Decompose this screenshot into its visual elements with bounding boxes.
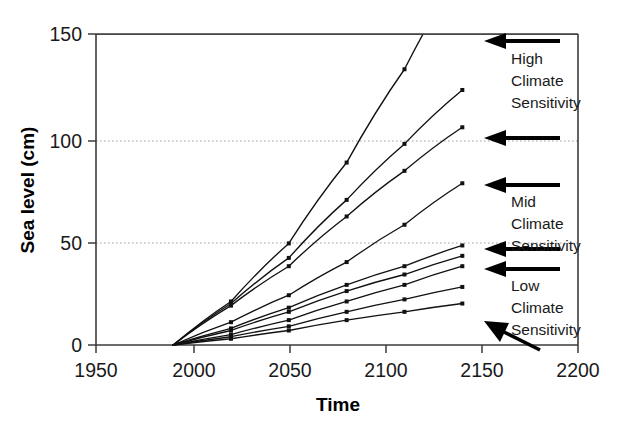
annotation-low-line-3: Sensitivity: [511, 321, 581, 338]
series-8-point-1: [229, 337, 233, 341]
series-6-point-3: [345, 299, 349, 303]
series-4-point-4: [402, 264, 406, 268]
top-clip-mask: [96, 0, 578, 34]
series-8-point-5: [460, 302, 464, 306]
series-5-point-1: [229, 328, 233, 332]
annotation-mid-line-2: Climate: [511, 215, 564, 232]
series-3-point-4: [402, 223, 406, 227]
annotation-high-line-3: Sensitivity: [511, 94, 581, 111]
x-tick-label-2200: 2200: [556, 359, 600, 381]
annotation-low-line-1: Low: [511, 277, 540, 294]
y-tick-label-100: 100: [49, 130, 82, 152]
series-8-point-3: [345, 318, 349, 322]
y-tick-label-150: 150: [49, 23, 82, 45]
y-axis-title: Sea level (cm): [17, 127, 38, 254]
series-3-point-5: [460, 181, 464, 185]
series-4-point-2: [287, 306, 291, 310]
series-7-point-3: [345, 310, 349, 314]
series-5-point-3: [345, 289, 349, 293]
annotation-high-line-2: Climate: [511, 72, 564, 89]
x-tick-label-1950: 1950: [74, 359, 118, 381]
series-6-point-4: [402, 283, 406, 287]
series-1-point-2: [287, 256, 291, 260]
x-tick-label-2000: 2000: [172, 359, 216, 381]
series-3-point-2: [287, 293, 291, 297]
annotation-mid-line-1: Mid: [511, 193, 536, 210]
series-2-point-2: [287, 264, 291, 268]
y-tick-label-50: 50: [60, 232, 82, 254]
series-1-point-4: [402, 142, 406, 146]
series-2-point-1: [229, 304, 233, 308]
x-tick-label-2150: 2150: [460, 359, 504, 381]
series-0-point-2: [287, 241, 291, 245]
series-7-point-4: [402, 297, 406, 301]
series-2-point-3: [345, 214, 349, 218]
series-6-point-2: [287, 318, 291, 322]
annotation-low-line-2: Climate: [511, 299, 564, 316]
series-0-point-3: [345, 161, 349, 165]
series-5-point-4: [402, 273, 406, 277]
series-4-point-5: [460, 243, 464, 247]
series-1-point-3: [345, 198, 349, 202]
x-tick-label-2050: 2050: [268, 359, 312, 381]
x-tick-label-2100: 2100: [364, 359, 408, 381]
series-2-point-5: [460, 125, 464, 129]
series-0-point-4: [402, 67, 406, 71]
series-3-point-1: [229, 320, 233, 324]
sea-level-projection-chart: 150 100 50 0 1950 2000 2050 2100 2150 22…: [0, 0, 627, 437]
series-2-point-4: [402, 169, 406, 173]
series-7-point-2: [287, 324, 291, 328]
series-8-point-4: [402, 310, 406, 314]
chart-figure: 150 100 50 0 1950 2000 2050 2100 2150 22…: [0, 0, 627, 437]
series-3-point-3: [345, 260, 349, 264]
annotation-mid-line-3: Sensitivity: [511, 237, 581, 254]
series-1-point-5: [460, 88, 464, 92]
series-4-point-3: [345, 283, 349, 287]
x-axis-title: Time: [316, 394, 360, 415]
annotation-high-line-1: High: [511, 50, 543, 67]
series-7-point-5: [460, 285, 464, 289]
series-5-point-2: [287, 310, 291, 314]
series-5-point-5: [460, 254, 464, 258]
series-6-point-5: [460, 264, 464, 268]
y-tick-label-0: 0: [71, 334, 82, 356]
series-8-point-2: [287, 328, 291, 332]
